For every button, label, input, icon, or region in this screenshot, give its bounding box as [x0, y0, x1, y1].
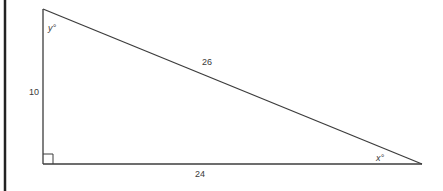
- angle-y-label: y°: [48, 24, 56, 33]
- right-triangle-diagram: y° 10 26 24 x°: [0, 0, 443, 191]
- angle-x-label: x°: [376, 154, 384, 163]
- vertical-leg-label: 10: [29, 88, 39, 97]
- horizontal-leg-label: 24: [195, 170, 205, 179]
- right-angle-marker-icon: [43, 154, 53, 164]
- hypotenuse: [43, 9, 422, 164]
- hypotenuse-label: 26: [202, 58, 212, 67]
